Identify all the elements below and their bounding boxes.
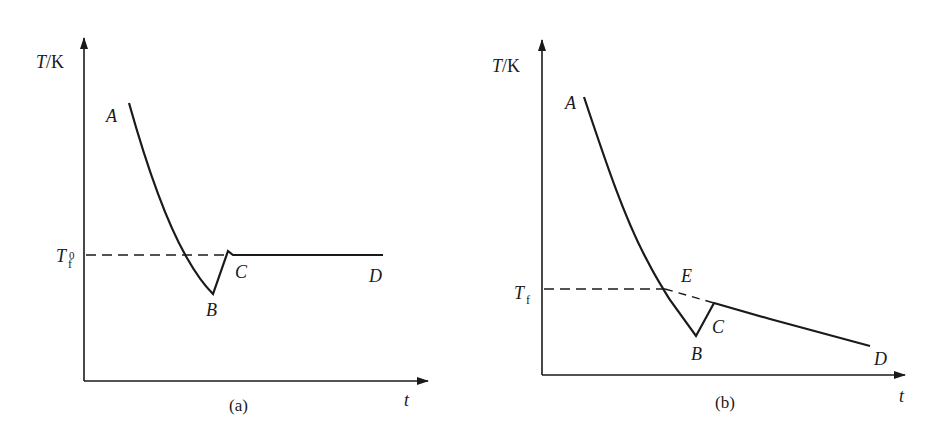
cooling-curve-b — [584, 97, 870, 346]
panel-caption: (b) — [715, 393, 735, 412]
point-label-a: A — [105, 106, 118, 126]
y-axis-label: T/K — [36, 52, 64, 72]
panel-caption: (a) — [229, 396, 248, 415]
extrapolated-dashed-line — [665, 289, 714, 303]
point-label-b: B — [206, 300, 217, 320]
ref-temp-sub: f — [526, 293, 530, 307]
x-axis-label: t — [404, 390, 410, 410]
point-label-e: E — [680, 266, 692, 286]
ref-temp-label: T — [56, 246, 68, 266]
ref-temp-label: T — [514, 283, 526, 303]
point-label-b: B — [691, 344, 702, 364]
cooling-curve-a — [129, 103, 383, 294]
panel-b: T/K T f A E B C D (b) t — [492, 40, 905, 412]
x-axis-label: t — [899, 386, 905, 406]
point-label-a: A — [564, 93, 577, 113]
point-label-c: C — [712, 317, 725, 337]
point-label-d: D — [873, 349, 887, 369]
panel-a: T/K T f 0 A B C D (a) t — [36, 38, 428, 415]
cooling-curves-figure: T/K T f 0 A B C D (a) t T/K T f A E B C — [0, 0, 933, 441]
point-label-c: C — [235, 262, 248, 282]
point-label-d: D — [368, 266, 382, 286]
y-axis-label: T/K — [492, 56, 520, 76]
ref-temp-sup: 0 — [69, 249, 75, 261]
